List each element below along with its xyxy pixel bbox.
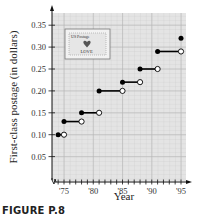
stamp-inset: US Postage LOVE — [65, 29, 110, 59]
x-tick-label: '95 — [176, 186, 186, 196]
stamp-bottom-text: LOVE — [81, 49, 93, 54]
y-axis-arrow-icon — [50, 5, 54, 11]
y-tick-label: 0.05 — [31, 152, 46, 162]
x-tick-label: '75 — [59, 186, 69, 196]
y-tick-label: 0.20 — [31, 86, 46, 96]
open-endpoint-icon — [120, 88, 125, 93]
open-endpoint-icon — [97, 110, 102, 115]
x-axis-title: Year — [114, 190, 135, 202]
y-tick-label: 0.10 — [31, 130, 46, 140]
stamp-top-text: US Postage — [71, 34, 90, 39]
x-tick-label: '80 — [88, 186, 98, 196]
open-endpoint-icon — [178, 49, 183, 54]
closed-endpoint-icon — [155, 49, 160, 54]
y-tick-label: 0.25 — [31, 64, 46, 74]
x-tick-label: '90 — [147, 186, 157, 196]
y-axis-title: First-class postage (in dollars) — [7, 30, 20, 163]
closed-endpoint-icon — [56, 132, 61, 137]
closed-endpoint-icon — [120, 80, 125, 85]
open-endpoint-icon — [79, 119, 84, 124]
closed-endpoint-icon — [97, 88, 102, 93]
closed-endpoint-icon — [79, 110, 84, 115]
x-axis-arrow-icon — [186, 180, 192, 184]
y-tick-label: 0.15 — [31, 108, 46, 118]
closed-endpoint-icon — [179, 36, 184, 41]
y-tick-label: 0.30 — [31, 42, 46, 52]
open-endpoint-icon — [155, 66, 160, 71]
open-endpoint-icon — [137, 80, 142, 85]
y-ticks: 0.050.100.150.200.250.300.35 — [31, 20, 55, 161]
closed-endpoint-icon — [138, 67, 143, 72]
closed-endpoint-icon — [62, 119, 67, 124]
open-endpoint-icon — [61, 132, 66, 137]
figure-caption: FIGURE P.8 — [2, 205, 65, 216]
y-tick-label: 0.35 — [31, 20, 46, 30]
step-chart: '75'80'85'90'95 0.050.100.150.200.250.30… — [0, 0, 203, 205]
